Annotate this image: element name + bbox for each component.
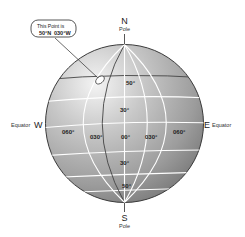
south-letter: S [121,213,127,223]
globe-diagram: This Point is 50°N 030°W N Pole S Pole E… [0,0,245,237]
lon-label-60w: 060° [62,129,75,135]
lat-label-30n: 30° [120,107,130,113]
north-pole-label: Pole [119,26,130,32]
callout-lon: 030°W [54,30,71,36]
west-equator-label: Equator [11,122,30,128]
lon-label-0: 00° [121,134,131,140]
lat-label-30s: 30° [120,160,130,166]
east-equator-label: Equator [212,122,231,128]
callout-lat: 50°N [39,30,51,36]
north-letter: N [121,16,128,26]
south-pole-label: Pole [119,223,130,229]
lon-label-30e: 030° [145,134,158,140]
lon-label-30w: 030° [90,134,103,140]
callout-line1: This Point is [37,23,65,29]
lat-label-50s: 50° [122,183,132,189]
lat-label-50n: 50° [126,80,136,86]
east-letter: E [204,120,210,130]
lon-label-60e: 060° [173,129,186,135]
west-letter: W [34,120,43,130]
